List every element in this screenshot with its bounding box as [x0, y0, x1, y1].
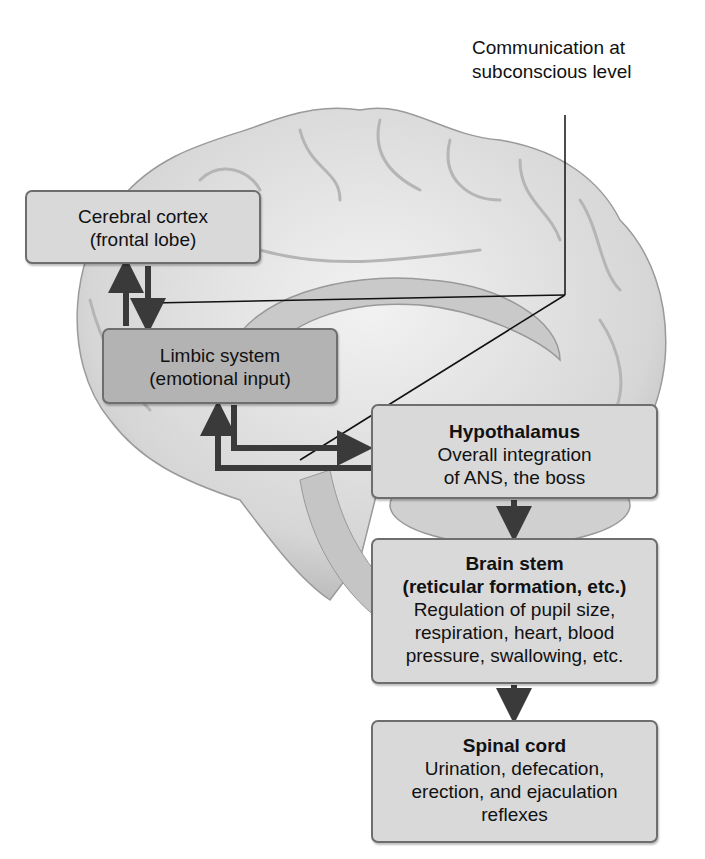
annotation-label: Communication at subconscious level — [472, 36, 631, 84]
cerebral-cortex-box: Cerebral cortex (frontal lobe) — [25, 190, 261, 264]
cortex-line2: (frontal lobe) — [27, 228, 259, 251]
spinal-title: Spinal cord — [373, 734, 656, 757]
hypothalamus-box: Hypothalamus Overall integration of ANS,… — [371, 404, 658, 499]
limbic-line1: Limbic system — [104, 344, 336, 367]
brainstem-title1: Brain stem — [373, 552, 656, 575]
limbic-system-box: Limbic system (emotional input) — [102, 328, 338, 404]
hypothalamus-title: Hypothalamus — [373, 420, 656, 443]
annotation-line2: subconscious level — [472, 60, 631, 84]
spinal-cord-box: Spinal cord Urination, defecation, erect… — [371, 720, 658, 843]
limbic-line2: (emotional input) — [104, 367, 336, 390]
hypothalamus-line2: of ANS, the boss — [373, 466, 656, 489]
annotation-line1: Communication at — [472, 36, 631, 60]
hypothalamus-line1: Overall integration — [373, 443, 656, 466]
spinal-line2: erection, and ejaculation — [373, 780, 656, 803]
spinal-line1: Urination, defecation, — [373, 757, 656, 780]
brainstem-line2: respiration, heart, blood — [373, 621, 656, 644]
spinal-line3: reflexes — [373, 803, 656, 826]
brainstem-title2: (reticular formation, etc.) — [373, 575, 656, 598]
brain-stem-box: Brain stem (reticular formation, etc.) R… — [371, 538, 658, 684]
brainstem-line1: Regulation of pupil size, — [373, 598, 656, 621]
cortex-line1: Cerebral cortex — [27, 205, 259, 228]
brainstem-line3: pressure, swallowing, etc. — [373, 644, 656, 667]
